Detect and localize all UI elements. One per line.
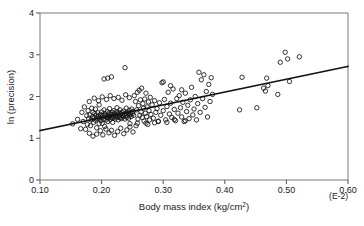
x-tick-label: 0.10 xyxy=(31,185,49,195)
y-tick-label: 0 xyxy=(29,175,34,185)
y-axis-title: ln (precision) xyxy=(5,70,16,124)
plot-canvas: 01234 0.100.200.300.400.500.60 ln (preci… xyxy=(0,0,364,226)
x-axis-title: Body mass index (kg/cm2) xyxy=(139,201,249,212)
y-axis-ticks xyxy=(36,13,40,180)
x-tick-label: 0.20 xyxy=(93,185,111,195)
x-axis-ticks xyxy=(40,180,348,184)
x-tick-label: 0.40 xyxy=(216,185,234,195)
x-tick-label: 0.50 xyxy=(278,185,296,195)
x-axis-unit-note: (E-2) xyxy=(329,191,348,201)
x-tick-label: 0.30 xyxy=(154,185,172,195)
y-axis-tick-labels: 01234 xyxy=(29,8,34,185)
y-tick-label: 4 xyxy=(29,8,34,18)
y-tick-label: 1 xyxy=(29,133,34,143)
y-tick-label: 2 xyxy=(29,92,34,102)
x-axis-tick-labels: 0.100.200.300.400.500.60 xyxy=(31,185,357,195)
scatter-plot-figure: 01234 0.100.200.300.400.500.60 ln (preci… xyxy=(0,0,364,226)
plot-frame xyxy=(40,13,348,180)
y-tick-label: 3 xyxy=(29,50,34,60)
